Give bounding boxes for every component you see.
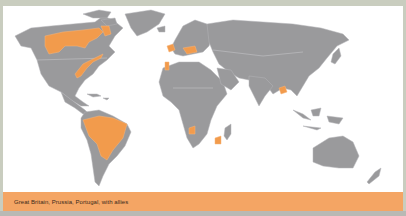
world-map[interactable] bbox=[3, 6, 403, 192]
africa bbox=[159, 62, 227, 148]
map-panel bbox=[3, 6, 403, 192]
map-frame: Great Britain, Prussia, Portugal, with a… bbox=[0, 0, 406, 216]
bottom-strip bbox=[0, 211, 406, 216]
madagascar bbox=[224, 124, 231, 140]
new-zealand bbox=[367, 168, 381, 184]
caribbean bbox=[87, 94, 109, 100]
southeast-asia-islands bbox=[293, 108, 343, 130]
iceland bbox=[157, 26, 165, 32]
region-portugal[interactable] bbox=[165, 62, 169, 70]
region-mozambique[interactable] bbox=[215, 136, 221, 144]
legend-bar: Great Britain, Prussia, Portugal, with a… bbox=[3, 192, 403, 211]
australia bbox=[313, 136, 359, 168]
legend-label: Great Britain, Prussia, Portugal, with a… bbox=[14, 199, 128, 205]
